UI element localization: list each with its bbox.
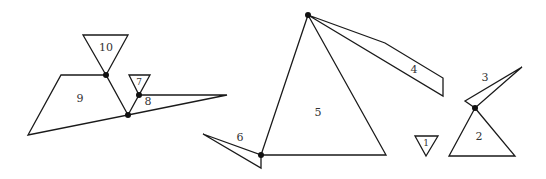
shape-1: 1 <box>415 136 438 156</box>
shape-2-label: 2 <box>476 130 483 143</box>
shape-6-outline <box>203 134 261 168</box>
shape-6-label: 6 <box>237 131 244 144</box>
shape-3-label: 3 <box>482 71 489 84</box>
shape-3: 3 <box>465 67 522 108</box>
shape-9: 9 <box>28 75 128 135</box>
shape-6: 6 <box>203 131 261 168</box>
joint-7-8-dot <box>136 92 142 98</box>
shape-8-label: 8 <box>145 95 152 108</box>
shape-7: 7 <box>129 75 150 95</box>
shape-4-outline <box>308 15 443 96</box>
shape-4-label: 4 <box>411 63 418 76</box>
shape-8-outline <box>128 95 227 115</box>
shape-5-label: 5 <box>315 106 322 119</box>
polygon-diagram: 12345678910 <box>0 0 546 179</box>
shape-4: 4 <box>308 15 443 96</box>
shape-9-outline <box>28 75 128 135</box>
shape-2: 2 <box>449 108 515 156</box>
joint-5-4-dot <box>305 12 311 18</box>
shape-8: 8 <box>128 95 227 115</box>
joint-6-5-dot <box>258 152 264 158</box>
shape-3-outline <box>465 67 522 108</box>
joint-9-8-dot <box>125 112 131 118</box>
shape-1-label: 1 <box>423 138 429 148</box>
shape-10: 10 <box>83 35 128 75</box>
shape-7-label: 7 <box>136 77 142 87</box>
shape-10-label: 10 <box>99 41 113 54</box>
diagram-canvas: 12345678910 <box>0 0 546 179</box>
joint-10-9-dot <box>103 72 109 78</box>
shape-9-label: 9 <box>77 92 84 105</box>
joint-3-2-dot <box>472 105 478 111</box>
